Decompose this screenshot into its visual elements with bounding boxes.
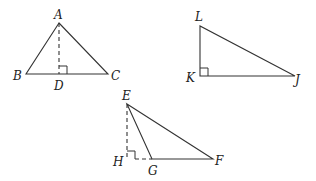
vertex-label-g: G bbox=[148, 164, 158, 178]
vertex-label-h: H bbox=[112, 155, 124, 169]
triangle-jkl-sides bbox=[200, 26, 295, 76]
vertex-label-l: L bbox=[194, 10, 203, 24]
vertex-label-f: F bbox=[214, 154, 224, 168]
triangle-jkl: L K J bbox=[185, 10, 301, 87]
triangle-efg: E H G F bbox=[112, 89, 224, 178]
triangle-abc: A B C D bbox=[12, 8, 120, 93]
vertex-label-c: C bbox=[111, 69, 120, 83]
triangle-efg-sides bbox=[127, 104, 213, 159]
vertex-label-a: A bbox=[53, 8, 63, 22]
triangles-diagram: A B C D L K J E H G F bbox=[0, 0, 316, 181]
right-angle-marker-k bbox=[200, 68, 208, 76]
vertex-label-e: E bbox=[121, 89, 131, 103]
vertex-label-k: K bbox=[185, 71, 196, 85]
right-angle-marker-h bbox=[127, 151, 135, 159]
vertex-label-d: D bbox=[53, 79, 64, 93]
right-angle-marker-d bbox=[59, 66, 67, 74]
vertex-label-b: B bbox=[12, 69, 22, 83]
